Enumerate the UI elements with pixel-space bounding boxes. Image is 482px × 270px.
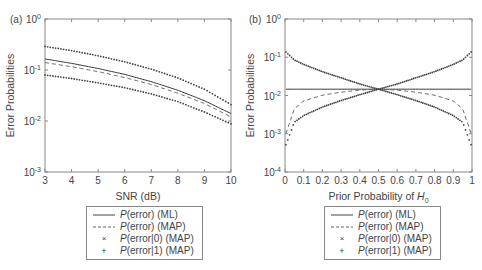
series-marker <box>161 96 163 98</box>
series-marker <box>196 108 198 110</box>
series-marker <box>437 70 439 72</box>
series-marker <box>367 85 369 87</box>
series-marker <box>324 105 326 107</box>
series-marker <box>344 98 346 100</box>
series-marker <box>448 65 450 67</box>
series-marker <box>230 104 232 106</box>
series-marker <box>153 94 155 96</box>
series-marker <box>330 103 332 105</box>
series-marker <box>317 108 319 110</box>
series-marker <box>468 53 470 55</box>
series-marker <box>291 56 293 58</box>
series-marker <box>339 76 341 78</box>
series-marker <box>467 134 469 136</box>
series-marker <box>145 67 147 69</box>
series-marker <box>119 86 121 88</box>
series-marker <box>391 85 393 87</box>
series-marker <box>108 84 110 86</box>
series-marker <box>127 62 129 64</box>
series-marker <box>129 88 131 90</box>
series-marker <box>331 74 333 76</box>
x-tick-label: 6 <box>122 175 128 186</box>
series-marker <box>182 103 184 105</box>
series-marker <box>222 119 224 121</box>
series-marker <box>291 129 293 131</box>
solid-line-icon <box>91 213 117 217</box>
series-marker <box>439 69 441 71</box>
series-marker <box>409 98 411 100</box>
dashed-line-icon <box>91 225 117 229</box>
series-marker <box>103 83 105 85</box>
chart-panel-b: 10010-110-210-310-400.10.20.30.40.50.60.… <box>244 13 475 204</box>
series-marker <box>370 91 372 93</box>
series-marker <box>315 68 317 70</box>
series-marker <box>121 86 123 88</box>
series-marker <box>89 81 91 83</box>
series-marker <box>300 117 302 119</box>
x-tick-label: 9 <box>202 175 208 186</box>
series-marker <box>318 70 320 72</box>
series-marker <box>166 98 168 100</box>
series-marker <box>404 96 406 98</box>
series-marker <box>322 71 324 73</box>
y-tick-label: 10-1 <box>264 51 281 63</box>
series-marker <box>420 75 422 77</box>
series-marker <box>73 78 75 80</box>
series-marker <box>164 97 166 99</box>
series-marker <box>201 110 203 112</box>
y-tick-label: 10-2 <box>264 90 281 102</box>
series-marker <box>71 78 73 80</box>
series-marker <box>441 109 443 111</box>
series-marker <box>79 79 81 81</box>
series-marker <box>465 129 467 131</box>
series-marker <box>196 85 198 87</box>
series-marker <box>227 102 229 104</box>
series-marker <box>454 115 456 117</box>
series-marker <box>148 68 150 70</box>
series-marker <box>87 53 89 55</box>
series-marker <box>206 112 208 114</box>
series-marker <box>426 103 428 105</box>
series-marker <box>435 107 437 109</box>
x-tick-label: 7 <box>149 175 155 186</box>
series-marker <box>311 67 313 69</box>
series-marker <box>188 82 190 84</box>
series-marker <box>113 59 115 61</box>
series-marker <box>140 91 142 93</box>
series-marker <box>341 100 343 102</box>
series-marker <box>318 108 320 110</box>
series-marker <box>404 81 406 83</box>
series-marker <box>305 65 307 67</box>
y-tick-label: 10-1 <box>24 64 41 76</box>
series-marker <box>394 93 396 95</box>
series-marker <box>398 94 400 96</box>
series-marker <box>172 75 174 77</box>
series-marker <box>424 74 426 76</box>
series-marker <box>387 86 389 88</box>
series-marker <box>198 86 200 88</box>
series-marker <box>57 76 59 78</box>
x-tick-label: 0.1 <box>297 175 311 186</box>
y-axis-label: Error Probabilities <box>4 54 16 137</box>
series-marker <box>354 96 356 98</box>
series-marker <box>452 114 454 116</box>
series-marker <box>302 115 304 117</box>
series-marker <box>383 90 385 92</box>
series-marker <box>103 56 105 58</box>
series-marker <box>352 96 354 98</box>
series-marker <box>116 85 118 87</box>
series-marker <box>142 91 144 93</box>
series-marker <box>335 101 337 103</box>
series-marker <box>108 57 110 59</box>
series-marker <box>452 64 454 66</box>
series-marker <box>311 111 313 113</box>
series-marker <box>348 80 350 82</box>
series-marker <box>287 139 289 141</box>
series-marker <box>140 65 142 67</box>
series-marker <box>68 49 70 51</box>
series-marker <box>81 79 83 81</box>
series-marker <box>313 67 315 69</box>
series-marker <box>450 65 452 67</box>
series-marker <box>470 51 472 53</box>
series-marker <box>335 75 337 77</box>
